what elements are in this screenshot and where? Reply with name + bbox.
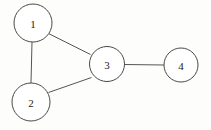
graph-figure: 1234 bbox=[0, 0, 211, 130]
node-label-4: 4 bbox=[178, 60, 184, 72]
node-label-3: 3 bbox=[104, 59, 110, 71]
node-1[interactable]: 1 bbox=[14, 4, 52, 42]
node-2[interactable]: 2 bbox=[12, 83, 50, 121]
edge-1-3 bbox=[49, 34, 91, 55]
edge-2-3 bbox=[49, 78, 92, 93]
node-label-1: 1 bbox=[30, 18, 36, 30]
edge-3-4 bbox=[125, 65, 165, 66]
edge-1-2 bbox=[31, 42, 32, 83]
node-label-2: 2 bbox=[28, 97, 34, 109]
node-4[interactable]: 4 bbox=[164, 48, 198, 82]
node-3[interactable]: 3 bbox=[90, 47, 125, 82]
nodes-group: 1234 bbox=[12, 4, 198, 121]
graph-canvas: 1234 bbox=[0, 0, 211, 130]
